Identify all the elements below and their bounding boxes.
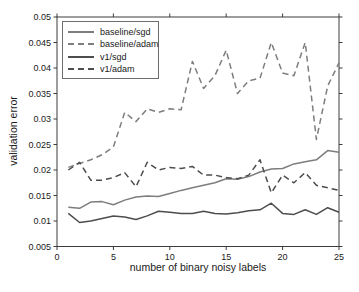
legend-box: baseline/sgd baseline/adam v1/sgd v1/ada… <box>62 21 159 79</box>
series-line-v1-sgd <box>68 203 339 222</box>
y-tick-label: 0.03 <box>33 114 51 124</box>
x-tick-label: 20 <box>278 252 288 262</box>
legend-label-baseline-sgd: baseline/sgd <box>100 26 151 38</box>
y-tick-label: 0.02 <box>33 165 51 175</box>
legend-line-sample-baseline-sgd <box>68 31 94 33</box>
legend-line-sample-baseline-adam <box>68 43 94 45</box>
legend-line-sample-v1-sgd <box>68 56 94 58</box>
y-tick-label: 0.005 <box>28 242 51 252</box>
y-tick-label: 0.045 <box>28 38 51 48</box>
legend-label-baseline-adam: baseline/adam <box>100 38 159 50</box>
x-tick-label: 10 <box>165 252 175 262</box>
validation-error-chart: 05101520250.0050.010.0150.020.0250.030.0… <box>0 0 359 292</box>
x-tick-label: 15 <box>221 252 231 262</box>
legend-item-v1-sgd: v1/sgd <box>68 51 154 63</box>
legend-item-v1-adam: v1/adam <box>68 63 154 75</box>
legend-line-sample-v1-adam <box>68 68 94 70</box>
series-line-v1-adam <box>68 160 339 193</box>
x-axis-label: number of binary noisy labels <box>57 261 339 273</box>
series-line-baseline-sgd <box>68 151 339 209</box>
y-tick-label: 0.05 <box>33 12 51 22</box>
legend-label-v1-adam: v1/adam <box>100 63 135 75</box>
x-tick-label: 0 <box>54 252 59 262</box>
legend-item-baseline-sgd: baseline/sgd <box>68 26 154 38</box>
y-tick-label: 0.015 <box>28 191 51 201</box>
y-axis-label: validation error <box>7 96 19 165</box>
y-tick-label: 0.04 <box>33 63 51 73</box>
x-tick-label: 5 <box>111 252 116 262</box>
plot-canvas: 05101520250.0050.010.0150.020.0250.030.0… <box>0 0 359 292</box>
x-tick-label: 25 <box>334 252 344 262</box>
legend-item-baseline-adam: baseline/adam <box>68 38 154 50</box>
y-tick-label: 0.01 <box>33 216 51 226</box>
y-tick-label: 0.025 <box>28 140 51 150</box>
y-tick-label: 0.035 <box>28 89 51 99</box>
legend-label-v1-sgd: v1/sgd <box>100 51 127 63</box>
